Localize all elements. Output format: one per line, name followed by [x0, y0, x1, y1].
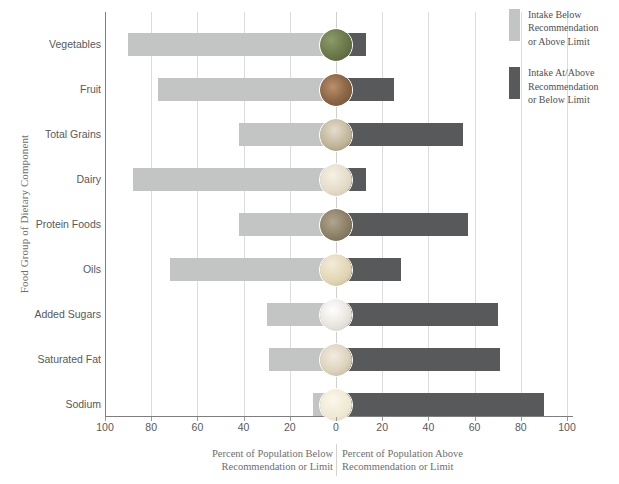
category-label-saturated-fat: Saturated Fat — [0, 337, 101, 382]
caption-left-line2: Recommendation or Limit — [165, 460, 333, 473]
x-tick-label: 20 — [362, 421, 402, 433]
chart-legend: Intake BelowRecommendationor Above Limit… — [509, 8, 619, 124]
oils-icon-glyph — [320, 254, 352, 286]
saturated-fat-icon-glyph — [320, 344, 352, 376]
x-tick-mark — [151, 417, 152, 421]
legend-label-line: Recommendation — [528, 21, 619, 34]
saturated-fat-icon — [319, 343, 353, 377]
x-tick-mark — [382, 417, 383, 421]
x-tick-mark — [567, 417, 568, 421]
x-tick-label: 60 — [177, 421, 217, 433]
legend-label-line: or Below Limit — [528, 93, 619, 106]
x-tick-label: 80 — [131, 421, 171, 433]
category-label-dairy: Dairy — [0, 157, 101, 202]
x-tick-label: 40 — [224, 421, 264, 433]
diverging-bar-chart: Food Group of Dietary Component Vegetabl… — [0, 0, 619, 484]
bar-above-added-sugars — [336, 303, 498, 326]
x-tick-mark — [428, 417, 429, 421]
caption-right-line1: Percent of Population Above — [342, 447, 522, 460]
bar-row: Protein Foods — [105, 202, 573, 247]
protein-icon-glyph — [320, 209, 352, 241]
bar-above-saturated-fat — [336, 348, 500, 371]
x-tick-label: 100 — [547, 421, 587, 433]
bar-row: Oils — [105, 247, 573, 292]
fruit-icon-glyph — [320, 74, 352, 106]
category-label-protein-foods: Protein Foods — [0, 202, 101, 247]
vegetables-icon-glyph — [320, 29, 352, 61]
x-tick-mark — [336, 417, 337, 421]
legend-item: Intake At/AboveRecommendationor Below Li… — [509, 66, 619, 106]
category-label-vegetables: Vegetables — [0, 22, 101, 67]
vegetables-icon — [319, 28, 353, 62]
added-sugars-icon-glyph — [320, 299, 352, 331]
bar-row: Added Sugars — [105, 292, 573, 337]
x-tick-label: 20 — [270, 421, 310, 433]
bar-below-fruit — [158, 78, 336, 101]
bar-row: Total Grains — [105, 112, 573, 157]
bar-below-vegetables — [128, 33, 336, 56]
caption-divider — [336, 444, 337, 476]
bar-row: Vegetables — [105, 22, 573, 67]
legend-label: Intake At/AboveRecommendationor Below Li… — [528, 66, 619, 106]
bar-below-oils — [170, 258, 336, 281]
bar-above-protein-foods — [336, 213, 468, 236]
caption-right-line2: Recommendation or Limit — [342, 460, 522, 473]
added-sugars-icon — [319, 298, 353, 332]
bar-row: Fruit — [105, 67, 573, 112]
x-tick-label: 100 — [85, 421, 125, 433]
caption-right: Percent of Population Above Recommendati… — [342, 447, 522, 473]
grains-icon-glyph — [320, 119, 352, 151]
legend-label-line: or Above Limit — [528, 35, 619, 48]
bar-above-total-grains — [336, 123, 463, 146]
sodium-icon-glyph — [320, 389, 352, 421]
bar-row: Saturated Fat — [105, 337, 573, 382]
category-label-fruit: Fruit — [0, 67, 101, 112]
fruit-icon — [319, 73, 353, 107]
bar-row: Dairy — [105, 157, 573, 202]
x-tick-label: 60 — [455, 421, 495, 433]
x-tick-mark — [521, 417, 522, 421]
legend-swatch — [509, 67, 520, 99]
x-tick-mark — [105, 417, 106, 421]
x-tick-mark — [244, 417, 245, 421]
x-tick-mark — [197, 417, 198, 421]
category-label-added-sugars: Added Sugars — [0, 292, 101, 337]
legend-label-line: Intake At/Above — [528, 66, 619, 79]
category-label-oils: Oils — [0, 247, 101, 292]
caption-left-line1: Percent of Population Below — [165, 447, 333, 460]
legend-swatch — [509, 9, 520, 41]
x-tick-mark — [290, 417, 291, 421]
oils-icon — [319, 253, 353, 287]
x-tick-mark — [475, 417, 476, 421]
bar-above-sodium — [336, 393, 544, 416]
x-tick-label: 40 — [408, 421, 448, 433]
dairy-icon — [319, 163, 353, 197]
x-tick-label: 0 — [316, 421, 356, 433]
x-tick-label: 80 — [501, 421, 541, 433]
plot-area: VegetablesFruitTotal GrainsDairyProtein … — [105, 12, 573, 417]
protein-icon — [319, 208, 353, 242]
caption-left: Percent of Population Below Recommendati… — [165, 447, 333, 473]
bar-below-dairy — [133, 168, 336, 191]
grains-icon — [319, 118, 353, 152]
legend-item: Intake BelowRecommendationor Above Limit — [509, 8, 619, 48]
dairy-icon-glyph — [320, 164, 352, 196]
legend-label-line: Recommendation — [528, 80, 619, 93]
category-label-total-grains: Total Grains — [0, 112, 101, 157]
legend-label: Intake BelowRecommendationor Above Limit — [528, 8, 619, 48]
legend-label-line: Intake Below — [528, 8, 619, 21]
